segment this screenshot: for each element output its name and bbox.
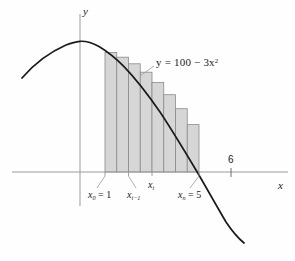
- tick-label-xi: xi: [148, 180, 154, 191]
- y-axis-label: y: [83, 6, 88, 17]
- curve-equation-label: y = 100 − 3x2: [156, 57, 218, 68]
- riemann-rect: [117, 57, 129, 172]
- x-intercept-label: 6: [228, 155, 234, 165]
- riemann-rect: [105, 53, 117, 173]
- tick-label-x0: x0 = 1: [88, 190, 111, 201]
- tick-label-xi-minus-1: xi−1: [127, 190, 140, 201]
- riemann-sum-figure: [0, 0, 295, 261]
- tick-label-xn: xn = 5: [178, 190, 201, 201]
- x-axis-label: x: [278, 180, 283, 191]
- riemann-rect: [129, 64, 141, 172]
- riemann-rect: [152, 83, 164, 173]
